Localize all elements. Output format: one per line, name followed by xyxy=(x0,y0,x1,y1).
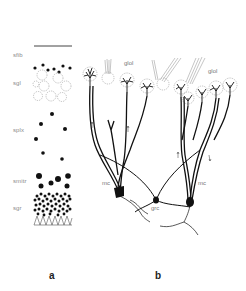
left-mitral-cell-body xyxy=(114,186,124,198)
label-glol-right: glol xyxy=(208,68,217,74)
label-mc-left: mc xyxy=(102,180,110,186)
label-mc-right: mc xyxy=(198,180,206,186)
olfactory-bulb-figure: sfib sgl splx smitr sgr xyxy=(0,0,246,291)
right-mitral-cell-body xyxy=(186,197,194,207)
left-mitral-dendrites xyxy=(90,86,147,192)
panel-label-a: a xyxy=(49,270,55,281)
panel-label-b: b xyxy=(155,270,161,281)
label-glol-left: glol xyxy=(124,60,133,66)
granule-cell-dendrites xyxy=(100,150,200,212)
label-grc: grc xyxy=(151,205,159,211)
panel-b-neurons-drawing xyxy=(0,0,246,291)
granule-cell-body xyxy=(153,197,159,204)
